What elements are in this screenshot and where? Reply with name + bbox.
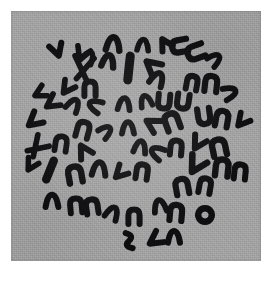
chromosome-count: 46 bbox=[0, 0, 1, 1]
micrograph-panel bbox=[11, 11, 261, 261]
chromosome bbox=[149, 144, 165, 160]
chromosome-body bbox=[215, 159, 229, 177]
chromosome bbox=[120, 233, 137, 249]
chromosome bbox=[234, 164, 247, 180]
chromosome bbox=[198, 178, 212, 194]
micrograph-figure: Metaphase chromosome spread 46 bbox=[0, 0, 280, 282]
chromosome bbox=[143, 115, 161, 133]
chromosome-body bbox=[234, 164, 247, 180]
chromosome bbox=[197, 108, 211, 125]
chromosome-body bbox=[143, 115, 161, 133]
chromosome bbox=[169, 204, 182, 221]
chromosome bbox=[111, 165, 128, 182]
chromosome-body bbox=[175, 178, 190, 195]
chromosome bbox=[75, 142, 93, 160]
chromosome-body bbox=[133, 140, 147, 153]
chromosome-body bbox=[135, 164, 148, 180]
chromosome bbox=[207, 52, 222, 68]
chromosome bbox=[70, 198, 83, 213]
chromosome bbox=[223, 85, 238, 100]
chromosome-body bbox=[149, 144, 165, 160]
chromosome bbox=[23, 157, 39, 172]
chromosome bbox=[128, 209, 139, 224]
chromosome-body bbox=[189, 134, 207, 152]
chromosome bbox=[163, 112, 181, 132]
chromosome-body bbox=[98, 124, 113, 140]
chromosome-body bbox=[85, 199, 98, 215]
chromosome-body bbox=[105, 205, 121, 221]
chromosome bbox=[186, 43, 206, 61]
chromosome bbox=[139, 94, 153, 107]
chromosome-body bbox=[139, 94, 153, 107]
chromosome bbox=[211, 138, 227, 157]
chromosome-body bbox=[54, 136, 67, 152]
chromosome-body bbox=[46, 161, 54, 180]
chromosome-body bbox=[197, 108, 211, 125]
chromosome-body bbox=[106, 37, 121, 51]
chromosome-body bbox=[75, 121, 91, 139]
chromosome bbox=[233, 113, 250, 130]
chromosome bbox=[84, 81, 95, 96]
chromosome bbox=[133, 140, 147, 153]
chromosome-body bbox=[81, 50, 96, 65]
chromosome bbox=[87, 98, 103, 114]
chromosome bbox=[24, 111, 43, 131]
chromosome bbox=[153, 199, 167, 212]
chromosome-body bbox=[58, 80, 75, 97]
chromosome bbox=[65, 97, 81, 113]
chromosome-layer bbox=[11, 11, 261, 261]
chromosome-body bbox=[168, 231, 180, 243]
chromosome-body bbox=[204, 75, 217, 92]
chromosome bbox=[215, 110, 229, 127]
chromosome bbox=[75, 121, 91, 139]
chromosome-body bbox=[118, 98, 131, 111]
figure-title: Metaphase chromosome spread bbox=[0, 0, 1, 1]
chromosome-body bbox=[87, 98, 103, 114]
chromosome-body bbox=[137, 39, 149, 51]
chromosome-body bbox=[101, 54, 115, 67]
chromosome bbox=[175, 178, 190, 195]
chromosome bbox=[204, 75, 217, 92]
chromosome bbox=[215, 159, 229, 177]
chromosome bbox=[189, 134, 207, 152]
chromosome bbox=[185, 154, 207, 176]
chromosome-body bbox=[158, 94, 171, 109]
chromosome-body bbox=[75, 142, 93, 160]
chromosome bbox=[135, 164, 148, 180]
chromosome-body bbox=[233, 113, 250, 130]
chromosome-body bbox=[70, 198, 83, 213]
chromosome bbox=[81, 50, 96, 65]
chromosome bbox=[118, 98, 131, 111]
chromosome bbox=[101, 54, 115, 67]
chromosome bbox=[198, 208, 212, 222]
chromosome-body bbox=[198, 178, 212, 194]
chromosome-body bbox=[65, 97, 81, 113]
chromosome-body bbox=[198, 208, 212, 222]
chromosome-body bbox=[163, 112, 181, 132]
chromosome-body bbox=[128, 56, 131, 80]
chromosome bbox=[170, 140, 182, 156]
chromosome-body bbox=[176, 93, 189, 109]
chromosome bbox=[158, 94, 171, 109]
chromosome-body bbox=[128, 209, 139, 224]
chromosome-body bbox=[32, 85, 47, 101]
chromosome-body bbox=[67, 165, 83, 183]
chromosome-body bbox=[46, 195, 59, 207]
chromosome bbox=[92, 162, 107, 176]
chromosome-body bbox=[169, 204, 182, 221]
chromosome-body bbox=[111, 165, 128, 182]
chromosome-body bbox=[186, 75, 199, 90]
chromosome-body bbox=[120, 233, 137, 249]
chromosome bbox=[106, 37, 121, 51]
chromosome-body bbox=[170, 140, 182, 156]
chromosome bbox=[98, 124, 113, 140]
chromosome bbox=[137, 39, 149, 51]
chromosome bbox=[128, 56, 131, 80]
chromosome bbox=[105, 205, 121, 221]
chromosome-canvas bbox=[11, 11, 261, 261]
chromosome-body bbox=[122, 122, 134, 134]
chromosome-body bbox=[146, 231, 164, 249]
chromosome-body bbox=[207, 52, 222, 68]
chromosome-body bbox=[84, 81, 95, 96]
chromosome bbox=[146, 231, 164, 249]
